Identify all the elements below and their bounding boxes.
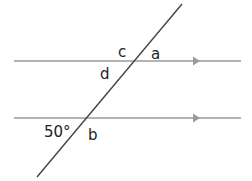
arrow-icon	[193, 114, 200, 123]
angle-label-c: c	[118, 43, 126, 61]
angle-label-d: d	[100, 65, 110, 83]
angle-label-50: 50°	[44, 123, 71, 141]
diagram: c a d 50° b	[0, 0, 252, 181]
diagram-canvas: c a d 50° b	[0, 0, 252, 181]
arrow-icon	[193, 57, 200, 66]
angle-label-b: b	[88, 126, 98, 144]
transversal-line	[37, 4, 182, 177]
angle-label-a: a	[151, 45, 160, 63]
